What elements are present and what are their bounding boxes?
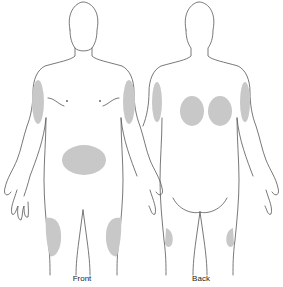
back-left-flank-site — [180, 96, 204, 126]
front-abdomen-site — [62, 145, 106, 175]
back-left-arm-site — [152, 82, 162, 122]
back-left-thigh-site — [165, 228, 173, 247]
body-map-diagram: Front Back — [0, 0, 283, 287]
back-figure — [143, 2, 279, 275]
body-figures — [0, 0, 283, 287]
back-right-thigh-site — [226, 228, 234, 247]
front-label: Front — [73, 274, 92, 283]
front-right-thigh-site — [106, 218, 121, 257]
front-left-thigh-site — [46, 218, 61, 257]
front-left-arm-site — [32, 80, 44, 124]
front-figure — [4, 2, 162, 275]
front-right-arm-site — [123, 80, 135, 124]
back-right-flank-site — [208, 96, 232, 126]
back-right-arm-site — [240, 82, 250, 122]
back-label: Back — [192, 274, 210, 283]
